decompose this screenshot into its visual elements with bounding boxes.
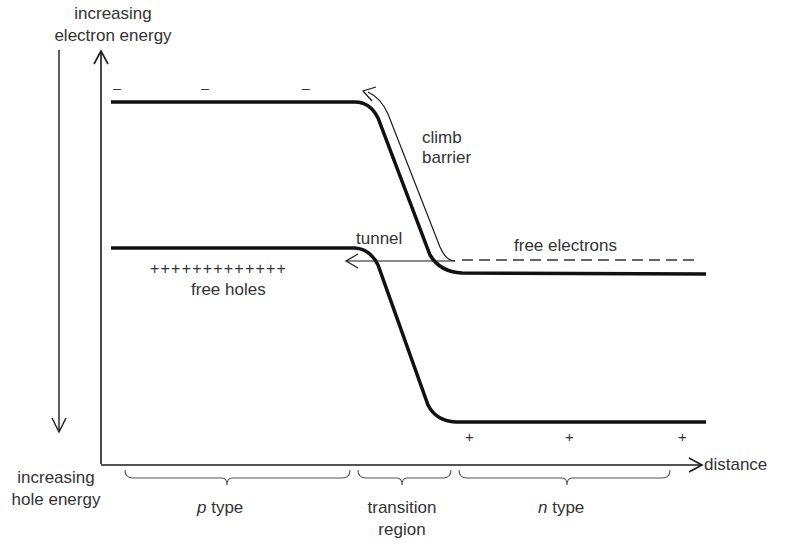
n-type-brace bbox=[459, 470, 670, 485]
free-electrons-label: free electrons bbox=[514, 236, 617, 256]
plus-sign-2: + bbox=[565, 430, 574, 444]
holes-plus-row: +++++++++++++ bbox=[150, 262, 287, 276]
barrier-label: barrier bbox=[422, 148, 471, 168]
y-top-label-line2: electron energy bbox=[38, 26, 188, 46]
plus-sign-3: + bbox=[678, 430, 687, 444]
minus-sign-3: – bbox=[302, 81, 310, 95]
tunnel-label: tunnel bbox=[356, 229, 402, 249]
x-axis-label: distance bbox=[704, 455, 767, 475]
minus-sign-1: – bbox=[113, 81, 121, 95]
n-type-label: n type bbox=[538, 498, 584, 518]
climb-barrier-arrow-icon bbox=[363, 87, 376, 101]
minus-sign-2: – bbox=[201, 81, 209, 95]
free-holes-label: free holes bbox=[191, 280, 266, 300]
p-type-label: p type bbox=[197, 498, 243, 518]
y-bottom-label-line2: hole energy bbox=[0, 490, 112, 510]
transition-label-line1: transition bbox=[352, 498, 452, 518]
climb-label: climb bbox=[422, 128, 462, 148]
transition-label-line2: region bbox=[352, 520, 452, 540]
transition-brace bbox=[358, 470, 451, 485]
y-top-label-line1: increasing bbox=[58, 4, 168, 24]
plus-sign-1: + bbox=[465, 430, 474, 444]
p-type-suffix: type bbox=[206, 498, 243, 517]
n-type-suffix: type bbox=[547, 498, 584, 517]
y-bottom-label-line1: increasing bbox=[8, 468, 104, 488]
p-type-brace bbox=[125, 470, 350, 485]
